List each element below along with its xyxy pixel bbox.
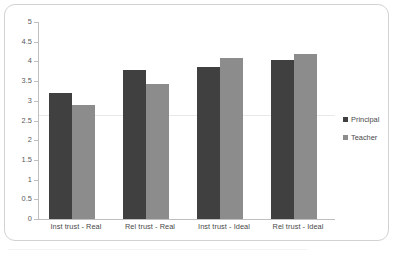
y-tick-mark	[34, 160, 38, 161]
y-tick-label: 2.5	[8, 117, 32, 125]
category-label: Inst trust - Ideal	[187, 222, 261, 232]
figure-bottom-edge	[8, 249, 308, 250]
y-tick-label: 4.5	[8, 38, 32, 46]
y-tick-mark	[34, 180, 38, 181]
category-label: Inst trust - Real	[39, 222, 113, 232]
legend-swatch-icon	[343, 135, 348, 140]
y-tick-mark	[34, 22, 38, 23]
y-tick-label: 3.5	[8, 77, 32, 85]
y-tick-mark	[34, 140, 38, 141]
y-tick-label: 0	[8, 215, 32, 223]
category-label: Rel trust - Ideal	[261, 222, 335, 232]
bar-principal[interactable]	[123, 70, 146, 219]
chart-legend: Principal Teacher	[343, 115, 389, 151]
bar-teacher[interactable]	[220, 58, 243, 219]
y-tick-label: 5	[8, 18, 32, 26]
y-tick-mark	[34, 121, 38, 122]
bar-teacher[interactable]	[294, 54, 317, 219]
y-tick-mark	[34, 42, 38, 43]
y-tick-label: 1	[8, 176, 32, 184]
x-axis-line	[38, 219, 335, 220]
x-axis-category-labels: Inst trust - RealRel trust - RealInst tr…	[39, 222, 335, 238]
y-tick-label: 1.5	[8, 156, 32, 164]
bar-group	[187, 22, 261, 219]
bar-group	[113, 22, 187, 219]
y-axis-tick-labels: 5 4.5 4 3.5 3 2.5 2 1.5 1 0.5 0	[5, 5, 32, 241]
y-tick-mark	[34, 199, 38, 200]
y-tick-mark	[34, 81, 38, 82]
y-tick-label: 3	[8, 97, 32, 105]
y-tick-mark	[34, 101, 38, 102]
bar-teacher[interactable]	[72, 105, 95, 219]
y-tick-mark	[34, 219, 38, 220]
legend-label: Teacher	[351, 133, 377, 142]
bar-group	[39, 22, 113, 219]
category-label: Rel trust - Real	[113, 222, 187, 232]
bar-principal[interactable]	[197, 67, 220, 219]
chart-frame: 5 4.5 4 3.5 3 2.5 2 1.5 1 0.5 0 Inst tru…	[4, 4, 389, 241]
chart-figure: 5 4.5 4 3.5 3 2.5 2 1.5 1 0.5 0 Inst tru…	[0, 0, 403, 256]
y-tick-label: 0.5	[8, 195, 32, 203]
y-tick-label: 4	[8, 57, 32, 65]
bar-group	[261, 22, 335, 219]
legend-entry-principal[interactable]: Principal	[343, 115, 389, 124]
bar-principal[interactable]	[271, 60, 294, 219]
legend-entry-teacher[interactable]: Teacher	[343, 133, 389, 142]
bars-layer	[39, 22, 335, 219]
legend-swatch-icon	[343, 117, 348, 122]
bar-teacher[interactable]	[146, 84, 169, 219]
y-tick-mark	[34, 61, 38, 62]
y-tick-label: 2	[8, 136, 32, 144]
legend-label: Principal	[351, 115, 379, 124]
bar-principal[interactable]	[49, 93, 72, 219]
